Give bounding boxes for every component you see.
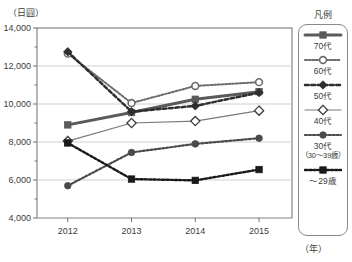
data-point — [256, 79, 263, 86]
data-point — [192, 141, 199, 148]
legend-swatch-70代 — [303, 29, 343, 41]
y-tick-label: 10,000 — [3, 99, 31, 109]
legend-item-70代[interactable]: 70代 — [299, 29, 347, 51]
data-point — [128, 176, 134, 182]
y-tick-label: 12,000 — [3, 61, 31, 71]
data-point — [256, 135, 263, 142]
data-point — [254, 106, 263, 115]
plot-area: 14,00012,00010,0008,0006,0004,0002012201… — [0, 0, 300, 262]
chart-page: （日圓） 14,00012,00010,0008,0006,0004,00020… — [0, 0, 352, 262]
legend-label-30代: 30代 — [299, 141, 347, 151]
legend-swatch-50代 — [303, 79, 343, 91]
data-point — [320, 167, 326, 173]
data-point — [65, 140, 71, 146]
legend-item-30代[interactable]: 30代（30～39歳） — [299, 129, 347, 161]
y-tick-label: 14,000 — [3, 23, 31, 33]
data-point — [256, 166, 262, 172]
y-tick-label: 6,000 — [8, 175, 31, 185]
legend-label-50代: 50代 — [299, 91, 347, 101]
line-chart-svg: 14,00012,00010,0008,0006,0004,0002012201… — [0, 0, 300, 262]
data-point — [192, 83, 199, 90]
data-point — [128, 100, 135, 107]
legend-swatch-～29歳 — [303, 164, 343, 176]
legend-item-60代[interactable]: 60代 — [299, 54, 347, 76]
data-point — [127, 118, 136, 127]
data-point — [318, 105, 327, 114]
x-tick-label: 2013 — [122, 226, 142, 236]
series-～29歳 — [65, 140, 263, 184]
x-tick-label: 2012 — [58, 226, 78, 236]
series-line — [68, 52, 259, 112]
legend-box: 70代60代50代40代30代（30～39歳）～29歳 — [298, 24, 348, 236]
x-tick-label: 2015 — [249, 226, 269, 236]
legend-label-～29歳: ～29歳 — [299, 176, 347, 186]
legend-sublabel-30代: （30～39歳） — [299, 151, 347, 161]
legend-label-60代: 60代 — [299, 66, 347, 76]
data-point — [191, 117, 200, 126]
data-point — [65, 122, 71, 128]
legend-swatch-40代 — [303, 104, 343, 116]
legend-item-40代[interactable]: 40代 — [299, 104, 347, 126]
legend-swatch-60代 — [303, 54, 343, 66]
legend-swatch-30代 — [303, 129, 343, 141]
legend-item-50代[interactable]: 50代 — [299, 79, 347, 101]
data-point — [191, 102, 199, 110]
x-tick-label: 2014 — [185, 226, 205, 236]
data-point — [192, 177, 198, 183]
y-tick-label: 4,000 — [8, 213, 31, 223]
data-point — [128, 149, 135, 156]
x-axis-unit-label: （年） — [300, 242, 327, 255]
data-point — [320, 32, 326, 38]
data-point — [319, 81, 327, 89]
y-tick-label: 8,000 — [8, 137, 31, 147]
data-point — [320, 132, 327, 139]
series-line — [68, 111, 259, 141]
legend-label-70代: 70代 — [299, 41, 347, 51]
legend-item-～29歳[interactable]: ～29歳 — [299, 164, 347, 186]
legend-title: 凡例 — [298, 8, 348, 21]
legend-label-40代: 40代 — [299, 116, 347, 126]
data-point — [64, 182, 71, 189]
data-point — [320, 57, 327, 64]
